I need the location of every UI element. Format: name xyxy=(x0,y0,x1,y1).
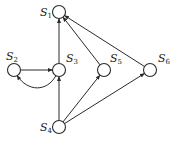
node-circle xyxy=(98,64,111,77)
edge-s4-to-s6 xyxy=(65,73,145,123)
node-label: S6 xyxy=(158,52,170,66)
directed-graph: S1S2S3S5S6S4 xyxy=(0,0,170,144)
node-s1: S1 xyxy=(40,6,66,21)
node-s4: S4 xyxy=(40,121,66,136)
node-s3: S3 xyxy=(53,52,79,77)
edge-s3-to-s2 xyxy=(17,76,56,88)
node-s5: S5 xyxy=(98,52,123,77)
node-circle xyxy=(53,121,66,134)
node-label: S4 xyxy=(40,121,53,135)
node-circle xyxy=(53,64,66,77)
node-s2: S2 xyxy=(6,50,21,77)
node-label: S2 xyxy=(6,50,18,64)
edge-s4-to-s5 xyxy=(63,75,100,122)
node-circle xyxy=(144,64,157,77)
node-label: S1 xyxy=(40,6,52,20)
node-label: S3 xyxy=(66,52,78,66)
edges-layer xyxy=(17,15,145,123)
node-label: S5 xyxy=(110,52,122,66)
node-circle xyxy=(8,64,21,77)
node-circle xyxy=(53,6,66,19)
node-s6: S6 xyxy=(144,52,171,77)
